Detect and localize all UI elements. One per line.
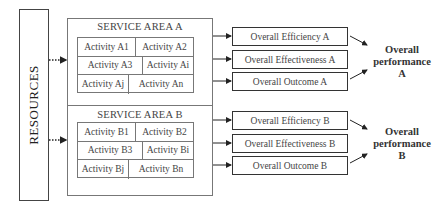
activity-an: Activity An	[129, 75, 193, 94]
output-effectiveness-a: Overall Effectiveness A	[232, 50, 348, 69]
activity-bi: Activity Bi	[143, 142, 193, 160]
resources-label: RESOURCES	[26, 65, 42, 145]
activity-row: Activity A3 Activity Ai	[78, 57, 193, 76]
overall-performance-b: Overall performance B	[362, 126, 442, 162]
performance-b-line2: performance	[362, 138, 442, 150]
output-efficiency-a: Overall Efficiency A	[232, 27, 348, 46]
activity-row: Activity Aj Activity An	[78, 75, 193, 94]
activity-row: Activity A1 Activity A2	[78, 38, 193, 57]
activity-ai: Activity Ai	[143, 57, 193, 75]
activity-bj: Activity Bj	[78, 160, 129, 179]
activity-aj: Activity Aj	[78, 75, 129, 94]
activity-a3: Activity A3	[78, 57, 143, 75]
overall-performance-a: Overall performance A	[362, 44, 442, 80]
service-area-b-title: SERVICE AREA B	[67, 109, 213, 120]
output-outcome-b: Overall Outcome B	[232, 156, 348, 175]
output-effectiveness-b: Overall Effectiveness B	[232, 134, 348, 153]
activity-b3: Activity B3	[78, 142, 143, 160]
activity-row: Activity B1 Activity B2	[78, 123, 193, 142]
activity-b1: Activity B1	[78, 123, 136, 141]
output-outcome-a: Overall Outcome A	[232, 72, 348, 91]
output-efficiency-b: Overall Efficiency B	[232, 111, 348, 130]
service-area-divider	[67, 105, 213, 106]
performance-b-line3: B	[362, 150, 442, 162]
activity-row: Activity Bj Activity Bn	[78, 160, 193, 179]
performance-a-line1: Overall	[362, 44, 442, 56]
activity-row: Activity B3 Activity Bi	[78, 142, 193, 161]
performance-b-line1: Overall	[362, 126, 442, 138]
service-area-a-title: SERVICE AREA A	[67, 21, 213, 32]
activity-bn: Activity Bn	[129, 160, 193, 179]
resources-box: RESOURCES	[19, 9, 49, 201]
activity-a2: Activity A2	[136, 38, 193, 56]
activity-a1: Activity A1	[78, 38, 136, 56]
performance-a-line3: A	[362, 68, 442, 80]
performance-a-line2: performance	[362, 56, 442, 68]
service-area-b-activities: Activity B1 Activity B2 Activity B3 Acti…	[77, 122, 194, 178]
activity-b2: Activity B2	[136, 123, 193, 141]
service-area-a-activities: Activity A1 Activity A2 Activity A3 Acti…	[77, 37, 194, 93]
